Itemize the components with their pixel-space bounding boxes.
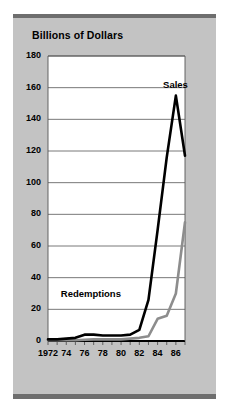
series-line-sales [48,96,185,340]
data-series-group [48,96,185,341]
series-line-redemptions [48,222,185,340]
ytick-label-100: 100 [15,177,41,187]
annotation-redemptions: Redemptions [61,288,121,299]
ytick-label-140: 140 [15,113,41,123]
ytick-label-40: 40 [15,272,41,282]
xtick-label-1986: 86 [161,348,191,358]
ytick-label-80: 80 [15,208,41,218]
ytick-label-60: 60 [15,240,41,250]
ytick-label-0: 0 [15,335,41,345]
ytick-label-180: 180 [15,50,41,60]
ytick-label-20: 20 [15,303,41,313]
ytick-label-160: 160 [15,82,41,92]
ytick-label-120: 120 [15,145,41,155]
chart-figure: Billions of Dollars 02040608010012014016… [0,0,229,418]
annotation-sales: Sales [163,79,188,90]
